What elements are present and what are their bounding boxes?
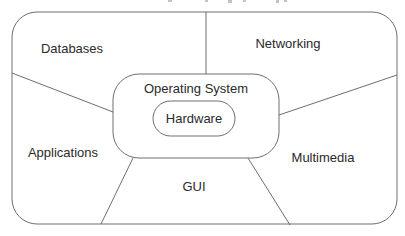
os-layer-diagram: Operating System Hardware Databases Netw… — [0, 0, 405, 236]
divider-left — [12, 73, 113, 112]
clipped-caption-fragment — [168, 0, 287, 3]
divider-gui-right — [248, 158, 290, 225]
label-databases: Databases — [41, 41, 104, 56]
label-operating-system: Operating System — [144, 81, 248, 96]
label-networking: Networking — [255, 36, 320, 51]
label-applications: Applications — [28, 145, 99, 160]
divider-gui-left — [101, 158, 133, 224]
label-gui: GUI — [182, 179, 205, 194]
divider-right — [279, 75, 397, 115]
label-multimedia: Multimedia — [292, 150, 356, 165]
label-hardware: Hardware — [166, 111, 222, 126]
